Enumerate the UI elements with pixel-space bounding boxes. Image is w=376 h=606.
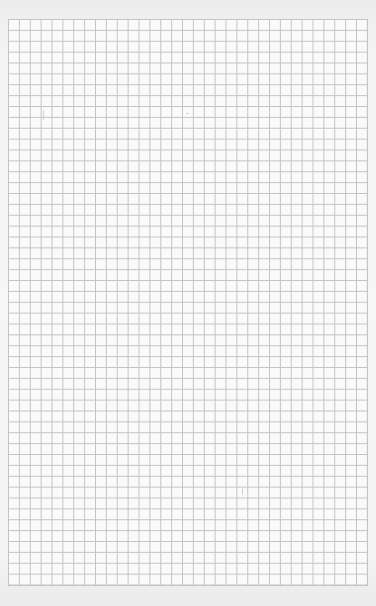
- paper-speck: [242, 488, 243, 495]
- paper-speck: [43, 110, 44, 120]
- square-grid: [8, 19, 368, 586]
- paper-speck: [186, 113, 189, 114]
- graph-paper-sheet: [0, 0, 376, 606]
